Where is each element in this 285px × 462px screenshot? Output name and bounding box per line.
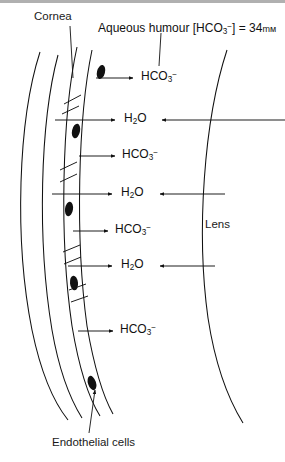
- label-aqueous-humour: Aqueous humour [HCO3−] = 34mᴍ: [98, 22, 277, 36]
- cell-border-1: [64, 95, 81, 104]
- cornea-inner-arc: [42, 55, 82, 418]
- species-text: HCO: [141, 69, 168, 83]
- endothelial-nucleus: [69, 275, 79, 291]
- figure-canvas: Cornea Aqueous humour [HCO3−] = 34mᴍ HCO…: [0, 0, 285, 462]
- label-lens: Lens: [205, 219, 230, 231]
- endothelium-layer: [60, 47, 113, 416]
- species-sup: −: [151, 323, 156, 332]
- cornea-leader-line: [70, 26, 73, 78]
- species-text: HCO: [120, 322, 147, 336]
- species-label-hco3: HCO3−: [141, 70, 177, 84]
- species-text: H: [124, 111, 133, 125]
- label-endothelial-cells: Endothelial cells: [52, 437, 135, 449]
- species-sup: −: [153, 148, 158, 157]
- cell-border-8: [71, 296, 88, 302]
- species-label-h2o: H2O: [121, 258, 144, 272]
- aqueous-text-mid: ] = 34: [232, 21, 262, 35]
- species-label-hco3: HCO3−: [120, 323, 156, 337]
- cornea-outer-arc: [21, 52, 68, 420]
- cell-border-4: [60, 174, 77, 182]
- cell-border-5: [63, 245, 80, 252]
- species-label-h2o: H2O: [121, 186, 144, 200]
- species-oxygen: O: [137, 111, 146, 125]
- species-sup: −: [146, 223, 151, 232]
- aqueous-text-prefix: Aqueous humour [HCO: [98, 21, 223, 35]
- species-label-hco3: HCO3−: [115, 223, 151, 237]
- endothelial-nucleus: [64, 201, 74, 217]
- cell-border-2: [62, 106, 79, 114]
- aqueous-leader-line: [159, 33, 161, 66]
- label-cornea: Cornea: [34, 11, 72, 23]
- species-text: H: [121, 257, 130, 271]
- cell-border-6: [64, 257, 81, 264]
- species-oxygen: O: [134, 185, 143, 199]
- species-label-h2o: H2O: [124, 112, 147, 126]
- species-text: H: [121, 185, 130, 199]
- endothelial-nucleus: [71, 123, 82, 139]
- species-text: HCO: [115, 222, 142, 236]
- cell-border-3: [60, 162, 77, 170]
- species-oxygen: O: [134, 257, 143, 271]
- endothelium-inner-edge: [80, 50, 113, 414]
- cornea-stroma: [21, 52, 82, 420]
- species-sup: −: [172, 70, 177, 79]
- aqueous-units: mᴍ: [262, 24, 276, 34]
- lens-arc: [202, 50, 243, 423]
- species-text: HCO: [122, 147, 149, 161]
- species-label-hco3: HCO3−: [122, 148, 158, 162]
- lens-structure: [202, 50, 243, 423]
